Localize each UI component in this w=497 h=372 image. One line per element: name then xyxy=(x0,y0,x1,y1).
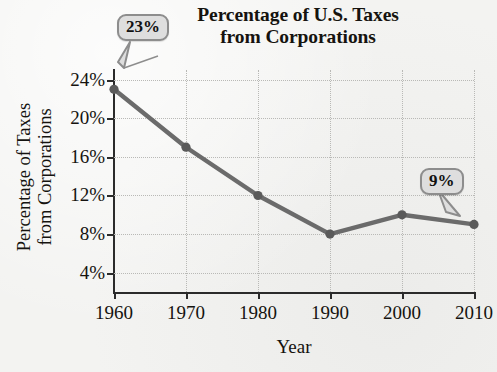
y-axis-title: Percentage of Taxes from Corporations xyxy=(8,66,62,288)
x-tick xyxy=(186,292,188,299)
x-tick xyxy=(474,292,476,299)
x-axis-title: Year xyxy=(113,336,475,358)
x-tick xyxy=(258,292,260,299)
y-tick xyxy=(107,80,114,82)
y-tick xyxy=(107,118,114,120)
x-tick-label: 1970 xyxy=(167,302,205,324)
y-tick xyxy=(107,234,114,236)
x-axis-line xyxy=(113,292,475,294)
y-tick-label: 24% xyxy=(70,69,105,91)
x-tick-label: 1980 xyxy=(239,302,277,324)
data-point xyxy=(181,143,190,152)
y-tick xyxy=(107,157,114,159)
x-tick xyxy=(330,292,332,299)
x-tick-label: 1990 xyxy=(311,302,349,324)
callout-value-2010: 9% xyxy=(420,168,464,195)
x-tick-label: 2010 xyxy=(455,302,493,324)
y-axis-title-line-2: from Corporations xyxy=(35,103,56,251)
data-point xyxy=(469,220,478,229)
data-point xyxy=(325,229,334,238)
series-line xyxy=(114,89,474,234)
y-tick-label: 20% xyxy=(70,107,105,129)
x-tick xyxy=(402,292,404,299)
gridline-vertical xyxy=(474,70,475,292)
data-point xyxy=(397,210,406,219)
x-tick xyxy=(114,292,116,299)
y-axis-title-line-1: Percentage of Taxes xyxy=(14,103,35,251)
y-tick-label: 4% xyxy=(80,262,105,284)
y-tick-label: 16% xyxy=(70,146,105,168)
y-tick-label: 8% xyxy=(80,223,105,245)
x-tick-label: 1960 xyxy=(95,302,133,324)
chart-title-line-1: Percentage of U.S. Taxes xyxy=(148,4,448,26)
chart-figure: Percentage of U.S. Taxes from Corporatio… xyxy=(0,0,497,372)
callout-value-1960: 23% xyxy=(117,14,169,41)
chart-title-line-2: from Corporations xyxy=(148,26,448,48)
data-point xyxy=(253,191,262,200)
y-tick-label: 12% xyxy=(70,184,105,206)
y-tick xyxy=(107,273,114,275)
data-point xyxy=(109,85,118,94)
chart-title: Percentage of U.S. Taxes from Corporatio… xyxy=(148,4,448,48)
y-tick xyxy=(107,195,114,197)
x-tick-label: 2000 xyxy=(383,302,421,324)
